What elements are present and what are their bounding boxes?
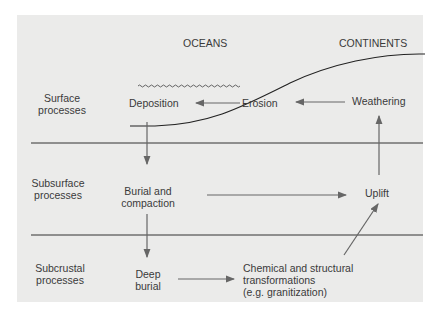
arrow-transform-to-uplift	[344, 204, 378, 255]
row-label-line: processes	[30, 274, 90, 286]
node-deep-burial: Deep burial	[128, 268, 168, 292]
node-chemical-transformations: Chemical and structural transformations …	[243, 262, 353, 298]
land-surface-curve	[130, 54, 425, 126]
node-line: Chemical and structural	[243, 262, 353, 274]
header-oceans: OCEANS	[183, 37, 227, 49]
node-deposition: Deposition	[129, 97, 179, 109]
row-label-subsurface: Subsurface processes	[28, 177, 88, 201]
sea-wave-icon	[138, 85, 240, 87]
row-label-line: Subsurface	[28, 177, 88, 189]
node-line: transformations	[243, 274, 353, 286]
row-label-line: Surface	[33, 92, 91, 104]
node-line: compaction	[117, 197, 179, 209]
row-label-subcrustal: Subcrustal processes	[30, 262, 90, 286]
header-continents: CONTINENTS	[339, 37, 407, 49]
node-uplift: Uplift	[365, 187, 389, 199]
row-label-line: processes	[33, 104, 91, 116]
node-line: Deep	[128, 268, 168, 280]
node-line: burial	[128, 280, 168, 292]
node-line: Burial and	[117, 185, 179, 197]
node-erosion: Erosion	[242, 97, 278, 109]
row-label-surface: Surface processes	[33, 92, 91, 116]
node-line: (e.g. granitization)	[243, 286, 353, 298]
node-weathering: Weathering	[352, 95, 406, 107]
row-label-line: Subcrustal	[30, 262, 90, 274]
row-label-line: processes	[28, 189, 88, 201]
node-burial-compaction: Burial and compaction	[117, 185, 179, 209]
